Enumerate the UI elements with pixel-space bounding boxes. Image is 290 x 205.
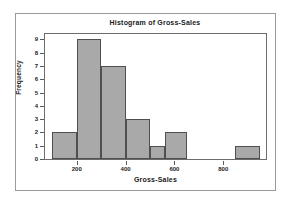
x-axis-tick-label: 600 bbox=[162, 166, 186, 173]
y-axis-tick-label: 2 bbox=[27, 129, 38, 135]
histogram-bar bbox=[150, 146, 165, 159]
y-axis-tick bbox=[40, 39, 44, 40]
histogram-bar bbox=[235, 146, 259, 159]
y-axis-tick bbox=[40, 66, 44, 67]
y-axis-tick-label: 5 bbox=[27, 90, 38, 96]
histogram-bar bbox=[101, 66, 125, 159]
y-axis-title: Frequency bbox=[15, 48, 22, 108]
y-axis-tick-label: 9 bbox=[27, 36, 38, 42]
y-axis-tick-label: 8 bbox=[27, 50, 38, 56]
y-axis-tick-label: 0 bbox=[27, 156, 38, 162]
plot-area bbox=[45, 34, 266, 159]
y-axis-tick bbox=[40, 146, 44, 147]
x-axis-tick bbox=[126, 161, 127, 165]
y-axis-tick-label: 1 bbox=[27, 143, 38, 149]
y-axis-tick-label: 6 bbox=[27, 76, 38, 82]
y-axis-tick-label: 7 bbox=[27, 63, 38, 69]
histogram-bar bbox=[165, 132, 187, 159]
y-axis-tick bbox=[40, 53, 44, 54]
x-axis-tick-label: 400 bbox=[114, 166, 138, 173]
x-axis-tick bbox=[223, 161, 224, 165]
x-axis-tick-label: 800 bbox=[211, 166, 235, 173]
histogram-screenshot: Histogram of Gross-Sales Frequency Gross… bbox=[0, 0, 290, 205]
y-axis-tick bbox=[40, 106, 44, 107]
x-axis-title: Gross-Sales bbox=[44, 176, 267, 183]
x-axis-tick bbox=[77, 161, 78, 165]
y-axis-tick bbox=[40, 132, 44, 133]
y-axis-tick bbox=[40, 119, 44, 120]
x-axis-tick bbox=[174, 161, 175, 165]
x-axis-tick-label: 200 bbox=[65, 166, 89, 173]
page-title: Histogram of Gross-Sales bbox=[40, 19, 270, 26]
y-axis-tick bbox=[40, 159, 44, 160]
histogram-bar bbox=[52, 132, 76, 159]
y-axis-tick-label: 4 bbox=[27, 103, 38, 109]
y-axis-tick bbox=[40, 93, 44, 94]
y-axis-tick bbox=[40, 79, 44, 80]
histogram-bar bbox=[126, 119, 150, 159]
y-axis-tick-label: 3 bbox=[27, 116, 38, 122]
histogram-bar bbox=[77, 39, 101, 159]
